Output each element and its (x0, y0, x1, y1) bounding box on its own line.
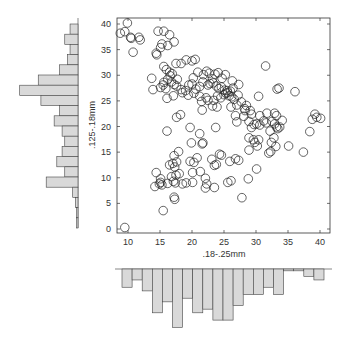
histogram-bar (46, 177, 78, 187)
histogram-bar (38, 75, 78, 85)
histogram-bar (142, 269, 152, 291)
x-tick-label: 25 (219, 237, 229, 247)
histogram-bar (59, 106, 78, 116)
histogram-bar (294, 269, 304, 271)
histogram-bar (20, 85, 78, 95)
y-tick-label: 5 (106, 198, 111, 208)
y-tick-label: 25 (101, 96, 111, 106)
histogram-bar (70, 24, 78, 34)
data-point (227, 103, 236, 112)
data-point (272, 111, 281, 120)
data-point (231, 111, 240, 120)
y-axis-label: .125-.18mm (87, 101, 97, 149)
data-point (261, 62, 270, 71)
histogram-bar (203, 269, 213, 309)
x-tick-label: 40 (315, 237, 325, 247)
data-point (218, 74, 227, 83)
data-point (187, 139, 196, 148)
histogram-bar (77, 218, 78, 228)
data-point (266, 147, 275, 156)
data-point (291, 87, 300, 96)
histogram-bar (41, 95, 78, 105)
histogram-bar (62, 126, 78, 136)
x-tick-label: 10 (123, 237, 133, 247)
histogram-bar (57, 157, 78, 167)
data-point (245, 146, 254, 155)
data-point (263, 109, 272, 118)
histogram-bar (59, 65, 78, 75)
histogram-bar (70, 44, 78, 54)
histogram-bar (73, 187, 78, 197)
histogram-bar (213, 269, 223, 320)
histogram-bar (304, 269, 314, 276)
histogram-bar (65, 136, 78, 146)
x-marginal-histogram (115, 269, 332, 327)
histogram-bar (65, 34, 78, 44)
data-point (172, 113, 181, 122)
data-point (167, 172, 176, 181)
data-point (211, 123, 220, 132)
data-point (311, 110, 320, 119)
data-point (189, 74, 198, 83)
data-point (226, 157, 235, 166)
histogram-bar (314, 269, 324, 280)
histogram-bar (173, 269, 183, 327)
histogram-bar (284, 269, 294, 271)
histogram-bar (253, 269, 263, 295)
histogram-bar (132, 269, 142, 280)
histogram-bar (65, 167, 78, 177)
data-point (176, 110, 185, 119)
histogram-bar (233, 269, 243, 306)
data-point (244, 175, 253, 184)
data-point (149, 85, 158, 94)
data-point (306, 127, 315, 136)
histogram-bar (62, 146, 78, 156)
data-point (156, 83, 165, 92)
data-point (268, 117, 277, 126)
y-axis-ticks: 0510152025303540 (101, 19, 330, 234)
y-tick-label: 15 (101, 147, 111, 157)
data-point (186, 123, 195, 132)
data-point (172, 59, 181, 68)
data-point (254, 92, 263, 101)
data-point (156, 175, 165, 184)
data-point (168, 69, 177, 78)
x-tick-label: 15 (155, 237, 165, 247)
histogram-bar (193, 269, 203, 313)
histogram-bar (152, 269, 162, 313)
histogram-bar (54, 116, 78, 126)
data-point (129, 48, 138, 57)
y-tick-label: 40 (101, 19, 111, 29)
histogram-bar (263, 269, 273, 287)
y-tick-label: 35 (101, 45, 111, 55)
data-point (299, 148, 308, 157)
data-point (188, 178, 197, 187)
data-point (233, 118, 242, 127)
data-point (136, 36, 145, 45)
scatter-points (116, 19, 325, 232)
data-point (152, 168, 161, 177)
histogram-bar (274, 269, 284, 295)
histogram-bar (67, 55, 78, 65)
data-point (121, 27, 130, 36)
data-point (191, 55, 200, 64)
data-point (202, 67, 211, 76)
histogram-bar (162, 269, 172, 302)
y-tick-label: 30 (101, 70, 111, 80)
x-axis-label: .18-.25mm (202, 249, 245, 259)
data-point (227, 177, 236, 186)
x-tick-label: 20 (187, 237, 197, 247)
data-point (194, 68, 203, 77)
x-tick-label: 30 (251, 237, 261, 247)
data-point (252, 165, 261, 174)
y-tick-label: 20 (101, 122, 111, 132)
data-point (201, 174, 210, 183)
data-point (159, 206, 168, 215)
y-tick-label: 10 (101, 173, 111, 183)
histogram-bar (122, 269, 132, 287)
data-point (210, 183, 219, 192)
data-point (284, 142, 293, 151)
data-point (270, 109, 279, 118)
data-point (188, 168, 197, 177)
scatter-with-marginal-histograms: 10152025303540 0510152025303540 .18-.25m… (0, 0, 347, 344)
